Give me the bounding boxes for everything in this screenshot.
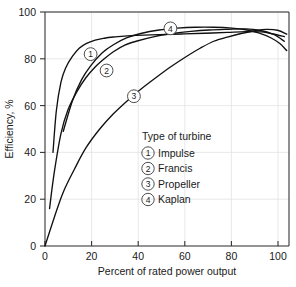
ytick-label-0: 0 — [30, 240, 36, 252]
legend-number-1: 1 — [146, 148, 151, 158]
xtick-label-80: 80 — [226, 250, 238, 262]
chart-root: 100 80 60 40 20 0 0 20 40 60 80 100 Perc… — [0, 0, 296, 287]
x-axis-title: Percent of rated power output — [98, 265, 236, 277]
ytick-label-60: 60 — [24, 100, 36, 112]
legend-item-francis[interactable]: 2 Francis — [142, 162, 193, 174]
xtick-label-60: 60 — [179, 250, 191, 262]
ytick-label-80: 80 — [24, 53, 36, 65]
curve-marker-2: 2 — [100, 64, 113, 77]
curve-marker-1: 1 — [84, 48, 97, 61]
xtick-label-100: 100 — [269, 250, 287, 262]
legend-label-francis: Francis — [158, 162, 192, 174]
ytick-label-20: 20 — [24, 193, 36, 205]
xtick-label-40: 40 — [132, 250, 144, 262]
marker-label-2: 2 — [104, 66, 109, 76]
marker-label-4: 4 — [168, 24, 173, 34]
y-axis-title: Efficiency, % — [3, 99, 15, 158]
legend-number-2: 2 — [146, 164, 151, 174]
legend-number-3: 3 — [146, 179, 151, 189]
ytick-label-100: 100 — [18, 6, 36, 18]
curve-marker-3: 3 — [128, 90, 141, 103]
legend-label-impulse: Impulse — [158, 147, 195, 159]
marker-label-3: 3 — [132, 91, 137, 101]
curve-marker-4: 4 — [164, 22, 177, 35]
legend-label-propeller: Propeller — [158, 178, 201, 190]
efficiency-vs-power-chart: 100 80 60 40 20 0 0 20 40 60 80 100 Perc… — [0, 0, 296, 287]
chart-background — [0, 0, 296, 287]
marker-label-1: 1 — [88, 49, 93, 59]
legend-title: Type of turbine — [142, 130, 212, 142]
legend-label-kaplan: Kaplan — [158, 193, 191, 205]
legend-item-impulse[interactable]: 1 Impulse — [142, 147, 195, 159]
legend-number-4: 4 — [146, 195, 151, 205]
legend-item-kaplan[interactable]: 4 Kaplan — [142, 193, 191, 205]
ytick-label-40: 40 — [24, 146, 36, 158]
xtick-label-20: 20 — [86, 250, 98, 262]
xtick-label-0: 0 — [42, 250, 48, 262]
